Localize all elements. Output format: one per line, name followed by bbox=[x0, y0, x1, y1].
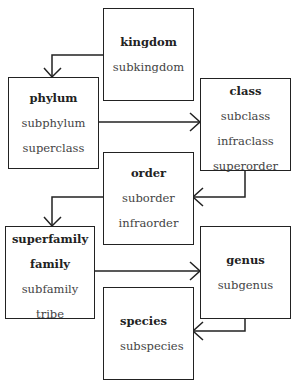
rank-box-genus: genus subgenus bbox=[200, 226, 291, 319]
rank-box-family: superfamily family subfamily tribe bbox=[5, 226, 95, 319]
edge-order-family bbox=[52, 197, 103, 226]
rank-label: kingdom bbox=[120, 30, 177, 55]
rank-label: superfamily bbox=[12, 227, 88, 252]
rank-label: genus bbox=[226, 248, 265, 273]
rank-label: family bbox=[30, 252, 70, 277]
subrank-label: subclass bbox=[221, 104, 270, 129]
subrank-label: subgenus bbox=[218, 273, 274, 298]
rank-box-class: class subclass infraclass superorder bbox=[200, 78, 291, 171]
rank-box-kingdom: kingdom subkingdom bbox=[103, 8, 194, 101]
rank-box-order: order suborder infraorder bbox=[103, 152, 194, 245]
subrank-label: infraclass bbox=[217, 129, 273, 154]
subrank-label: subkingdom bbox=[113, 55, 184, 80]
edge-kingdom-phylum bbox=[52, 55, 103, 77]
subrank-label: superclass bbox=[23, 136, 85, 161]
rank-box-species: species subspecies bbox=[103, 287, 194, 380]
rank-box-phylum: phylum subphylum superclass bbox=[8, 77, 99, 169]
subrank-label: tribe bbox=[36, 302, 64, 327]
subrank-label: subfamily bbox=[22, 277, 79, 302]
rank-label: species bbox=[120, 309, 167, 334]
subrank-label: superorder bbox=[213, 154, 278, 179]
subrank-label: subspecies bbox=[120, 334, 184, 359]
rank-label: order bbox=[131, 161, 166, 186]
rank-label: phylum bbox=[30, 86, 78, 111]
subrank-label: suborder bbox=[122, 186, 175, 211]
subrank-label: infraorder bbox=[119, 211, 179, 236]
subrank-label: subphylum bbox=[22, 111, 86, 136]
rank-label: class bbox=[230, 79, 262, 104]
